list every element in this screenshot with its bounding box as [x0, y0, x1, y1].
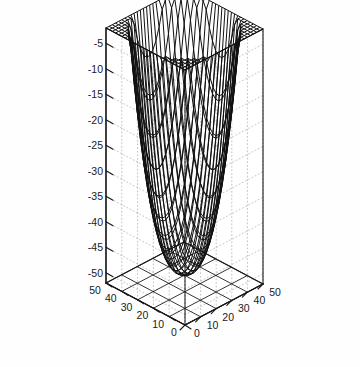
z-tick-label: -35	[88, 190, 103, 202]
x-tick-label: 20	[222, 311, 234, 323]
figure-canvas: -5-10-15-20-25-30-35-40-45-5050403020100…	[0, 0, 360, 367]
z-tick-label: -50	[88, 267, 103, 279]
z-tick-label: -5	[94, 37, 103, 49]
y-tick-label: 10	[152, 318, 164, 330]
surface-plot-svg: -5-10-15-20-25-30-35-40-45-5050403020100…	[0, 0, 360, 367]
x-tick-label: 30	[238, 302, 250, 314]
z-tick-label: -40	[88, 216, 103, 228]
y-tick-label: 20	[137, 309, 149, 321]
x-tick-label: 10	[207, 319, 219, 331]
z-tick-label: -15	[88, 88, 103, 100]
y-tick-label: 50	[89, 284, 101, 296]
x-tick-label: 50	[269, 286, 281, 298]
z-tick-label: -20	[88, 114, 103, 126]
z-tick-label: -25	[88, 139, 103, 151]
x-tick-label: 40	[254, 294, 266, 306]
y-tick-label: 0	[171, 326, 177, 338]
z-tick-label: -45	[88, 241, 103, 253]
x-tick-label: 0	[194, 327, 200, 339]
z-tick-label: -30	[88, 165, 103, 177]
y-tick-label: 30	[121, 301, 133, 313]
y-tick-label: 40	[105, 292, 117, 304]
z-tick-label: -10	[88, 63, 103, 75]
